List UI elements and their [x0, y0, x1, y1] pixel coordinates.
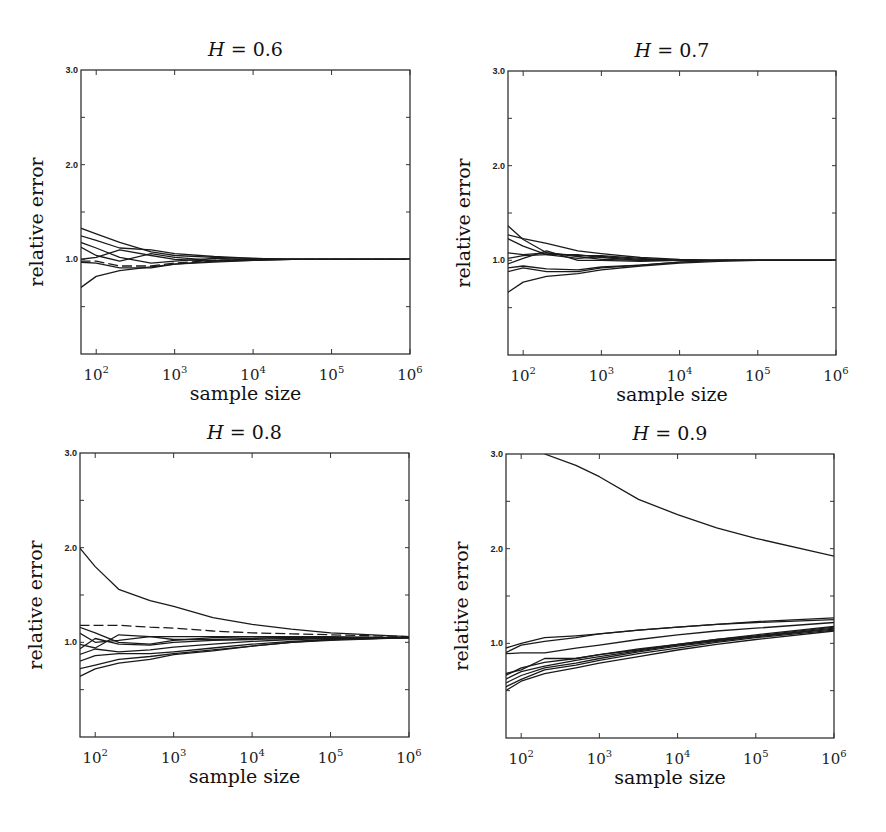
series-group	[506, 454, 835, 691]
y-tick-label: 1.0	[65, 254, 78, 264]
y-axis-label: relative error	[450, 540, 472, 670]
x-tick-label: 102	[508, 748, 533, 768]
data-line	[508, 260, 837, 292]
y-tick-label: 2.0	[490, 544, 503, 554]
y-axis-label: relative error	[452, 157, 474, 287]
x-tick-label: 106	[823, 365, 848, 385]
x-tick-label: 105	[318, 747, 343, 767]
subplot-h07: H = 0.71.02.03.0102103104105106sample si…	[452, 39, 849, 405]
x-tick-label: 102	[83, 364, 108, 384]
plot-frame	[508, 71, 836, 355]
series-group	[80, 548, 410, 677]
data-line	[508, 260, 837, 270]
data-line	[81, 259, 411, 287]
data-line	[508, 239, 837, 261]
series-group	[508, 225, 837, 292]
y-axis-label: relative error	[25, 156, 47, 286]
x-tick-label: 105	[745, 365, 770, 385]
x-tick-label: 102	[510, 365, 535, 385]
figure: H = 0.61.02.03.0102103104105106sample si…	[0, 0, 886, 832]
plot-frame	[80, 453, 409, 737]
plot-frame	[81, 70, 410, 354]
x-tick-label: 104	[667, 365, 692, 385]
x-tick-label: 106	[397, 364, 422, 384]
subplot-title: H = 0.8	[206, 421, 282, 443]
x-tick-label: 103	[587, 748, 612, 768]
series-group	[81, 228, 411, 288]
x-tick-label: 103	[162, 364, 187, 384]
x-tick-label: 105	[319, 364, 344, 384]
subplot-h08: H = 0.81.02.03.0102103104105106sample si…	[24, 421, 422, 787]
data-line	[508, 251, 837, 264]
data-line	[80, 638, 410, 662]
y-tick-label: 2.0	[64, 543, 77, 553]
x-tick-label: 102	[82, 747, 107, 767]
subplot-h09: H = 0.91.02.03.0102103104105106sample si…	[450, 422, 847, 788]
y-tick-label: 3.0	[64, 448, 77, 458]
data-line	[508, 260, 837, 271]
x-tick-label: 106	[821, 748, 846, 768]
data-line	[81, 228, 411, 259]
y-tick-label: 3.0	[492, 66, 505, 76]
x-axis-label: sample size	[616, 383, 728, 405]
x-tick-label: 104	[240, 364, 265, 384]
x-tick-label: 106	[396, 747, 421, 767]
y-tick-label: 1.0	[492, 255, 505, 265]
x-tick-label: 104	[239, 747, 264, 767]
data-line	[545, 454, 834, 556]
y-axis-label: relative error	[24, 539, 46, 669]
y-tick-label: 3.0	[490, 449, 503, 459]
x-tick-label: 105	[743, 748, 768, 768]
data-line	[81, 236, 411, 260]
y-tick-label: 2.0	[65, 160, 78, 170]
y-tick-label: 2.0	[492, 161, 505, 171]
x-axis-label: sample size	[614, 766, 726, 788]
subplot-title: H = 0.6	[207, 38, 283, 60]
x-tick-label: 103	[161, 747, 186, 767]
y-tick-label: 1.0	[64, 637, 77, 647]
y-tick-label: 3.0	[65, 65, 78, 75]
subplot-title: H = 0.7	[634, 39, 710, 61]
data-line	[80, 548, 410, 637]
x-tick-label: 103	[589, 365, 614, 385]
y-tick-label: 1.0	[490, 638, 503, 648]
x-axis-label: sample size	[189, 765, 301, 787]
x-tick-label: 104	[665, 748, 690, 768]
subplot-h06: H = 0.61.02.03.0102103104105106sample si…	[25, 38, 423, 404]
plot-frame	[506, 454, 834, 738]
subplot-title: H = 0.9	[632, 422, 708, 444]
x-axis-label: sample size	[190, 382, 302, 404]
